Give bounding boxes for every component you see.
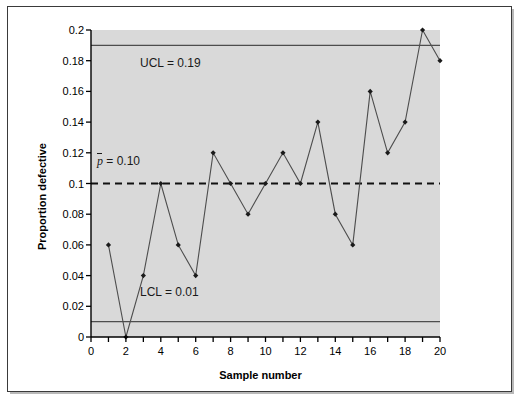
x-axis-tick-label: 14 (329, 345, 341, 357)
control-chart-figure: Proportion defective Sample number UCL =… (0, 0, 521, 401)
x-axis-tick-label: 20 (434, 345, 446, 357)
center-line-annotation: p = 0.10 (97, 153, 140, 169)
x-axis-tick-label: 8 (228, 345, 234, 357)
x-axis-tick-label: 12 (294, 345, 306, 357)
y-axis-tick-label: 0.08 (40, 208, 84, 220)
x-axis-title: Sample number (0, 369, 521, 381)
y-axis-tick-label: 0 (40, 331, 84, 343)
p-bar-symbol: p (97, 153, 103, 169)
y-axis-tick-label: 0.1 (40, 178, 84, 190)
x-axis-tick-label: 4 (158, 345, 164, 357)
y-axis-tick-label: 0.16 (40, 85, 84, 97)
x-axis-tick-label: 2 (123, 345, 129, 357)
y-axis-tick-label: 0.12 (40, 147, 84, 159)
ucl-annotation: UCL = 0.19 (140, 56, 201, 70)
y-axis-tick-label: 0.2 (40, 24, 84, 36)
x-axis-tick-label: 6 (193, 345, 199, 357)
x-axis-tick-label: 10 (259, 345, 271, 357)
x-axis-tick-label: 18 (399, 345, 411, 357)
x-axis-tick-label: 0 (88, 345, 94, 357)
y-axis-tick-label: 0.02 (40, 300, 84, 312)
center-line-value: = 0.10 (103, 154, 140, 168)
y-axis-title: Proportion defective (36, 143, 48, 250)
y-axis-tick-label: 0.06 (40, 239, 84, 251)
y-axis-tick-label: 0.14 (40, 116, 84, 128)
y-axis-tick-label: 0.18 (40, 55, 84, 67)
lcl-annotation: LCL = 0.01 (140, 285, 199, 299)
y-axis-tick-label: 0.04 (40, 270, 84, 282)
x-axis-tick-label: 16 (364, 345, 376, 357)
